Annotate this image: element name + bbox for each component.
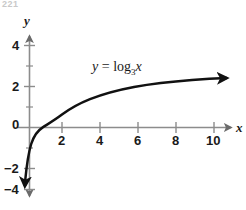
y-tick-label-minus-2: −2 bbox=[4, 162, 19, 175]
x-tick-label-2: 2 bbox=[58, 134, 65, 147]
equation-argument: x bbox=[136, 59, 142, 74]
y-tick-label-minus-4: −4 bbox=[4, 183, 19, 196]
x-tick-label-8: 8 bbox=[172, 134, 179, 147]
x-tick-label-10: 10 bbox=[206, 134, 220, 147]
plot-canvas bbox=[0, 0, 246, 210]
y-tick-label-2: 2 bbox=[12, 80, 19, 93]
logarithm-graph-figure: 221 bbox=[0, 0, 246, 210]
y-tick-label-4: 4 bbox=[12, 39, 19, 52]
curve-equation-label: y = log3x bbox=[92, 60, 142, 77]
y-tick-label-0: 0 bbox=[12, 118, 19, 131]
equation-equals: = bbox=[102, 59, 110, 74]
log-curve bbox=[25, 78, 226, 181]
x-axis-label: x bbox=[236, 121, 243, 134]
y-axis-label: y bbox=[24, 14, 30, 27]
x-tick-label-6: 6 bbox=[134, 134, 141, 147]
x-tick-label-4: 4 bbox=[96, 134, 103, 147]
equation-function: log bbox=[113, 59, 131, 74]
